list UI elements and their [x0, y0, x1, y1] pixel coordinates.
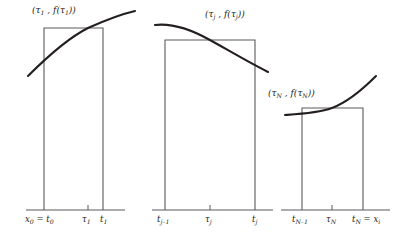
tau-subscript: N [331, 218, 336, 225]
paren-close: ) [72, 5, 76, 15]
tau-subscript: N [277, 92, 282, 99]
t-subscript: N–1 [295, 218, 307, 225]
tau-symbol: τ [209, 9, 214, 19]
tau-subscript-inner: j [236, 13, 238, 20]
t-subscript: j–1 [160, 218, 169, 225]
tau-subscript: j [210, 218, 212, 225]
paren-close: ) [311, 88, 315, 98]
panel-2-group [152, 25, 273, 210]
panel-1-tick-label-t1: t1 [100, 215, 107, 224]
equals-sign: = [361, 214, 374, 224]
tau-subscript: 1 [41, 9, 45, 16]
riemann-sum-figure: (τ1 , f(τ1)) x0 = t0 τ1 t1 (τj , f(τj)) … [0, 0, 397, 240]
panel-3-rectangle [302, 108, 363, 210]
panel-3-tick-label-tauN: τN [326, 215, 336, 224]
panel-2-tick-label-tauj: τj [205, 215, 212, 224]
tau-symbol: τ [82, 214, 87, 224]
panel-2-point-label: (τj , f(τj)) [205, 10, 245, 19]
tau-subscript-inner: N [302, 92, 307, 99]
tau-symbol: τ [205, 214, 210, 224]
t-subscript: 0 [50, 218, 54, 225]
panel-1-tick-label-tau1: τ1 [82, 215, 91, 224]
t-subscript: N [355, 218, 360, 225]
panel-1-point-label: (τ1 , f(τ1)) [32, 6, 76, 15]
tau-symbol: τ [36, 5, 41, 15]
comma: , [44, 5, 53, 15]
panel-2-tick-label-tjm1: tj–1 [157, 215, 169, 224]
panel-3-tick-label-tN-eq-xi: tN = xi [352, 215, 380, 224]
panel-1-group [26, 11, 135, 210]
t-subscript: 1 [103, 218, 107, 225]
x-subscript: 0 [30, 218, 34, 225]
panel-3-tick-label-tNm1: tN–1 [292, 215, 308, 224]
paren-close: ) [241, 9, 245, 19]
tau-subscript-inner: 1 [65, 9, 69, 16]
panel-1-tick-label-x0t0: x0 = t0 [25, 215, 54, 224]
equals-sign: = [34, 214, 47, 224]
comma: , [282, 88, 291, 98]
panel-2-tick-label-tj: tj [252, 215, 257, 224]
figure-canvas [0, 0, 397, 240]
comma: , [215, 9, 224, 19]
panel-2-curve [155, 25, 268, 72]
panel-3-point-label: (τN , f(τN)) [268, 89, 315, 98]
tau-subscript: 1 [87, 218, 91, 225]
panel-1-rectangle [44, 28, 103, 210]
panel-2-rectangle [165, 40, 255, 210]
x-subscript: i [378, 218, 380, 225]
tau-symbol: τ [326, 214, 331, 224]
tau-symbol: τ [272, 88, 277, 98]
